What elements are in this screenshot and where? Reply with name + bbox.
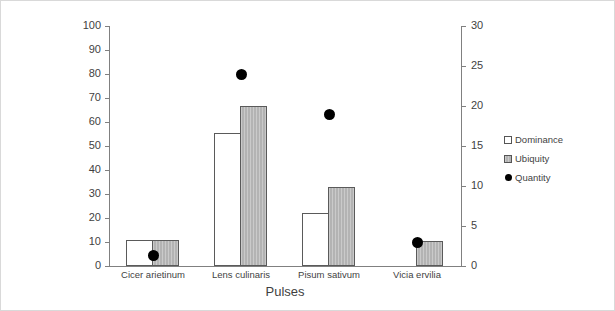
y2-axis-tick-mark [462,66,466,67]
data-point-quantity [412,237,423,248]
legend-item-ubiquity: Ubiquity [504,153,609,164]
y-axis-tick-label: 100 [67,20,101,31]
y-axis-tick-label: 20 [67,212,101,223]
y2-axis-tick-label: 0 [471,260,505,271]
square-gray-icon [504,155,512,163]
bar-dominance [214,133,241,266]
y2-axis-tick-mark [462,146,466,147]
y2-axis-tick-label: 15 [471,140,505,151]
y-axis-tick-mark [105,266,109,267]
data-point-quantity [236,69,247,80]
x-axis-tick-label: Lens culinaris [197,270,285,280]
x-axis-tick-label: Cicer arietinum [109,270,197,280]
legend-label-quantity: Quantity [515,172,550,183]
y-axis-tick-label: 90 [67,44,101,55]
y-axis-tick-label: 30 [67,188,101,199]
data-point-quantity [148,250,159,261]
bar-dominance [302,213,329,266]
plot-area [109,26,461,266]
y2-axis-tick-mark [462,106,466,107]
y-axis-tick-label: 60 [67,116,101,127]
y2-axis-tick-label: 25 [471,60,505,71]
y-axis-tick-label: 70 [67,92,101,103]
legend-label-ubiquity: Ubiquity [515,153,549,164]
y2-axis-tick-label: 30 [471,20,505,31]
bar-ubiquity [328,187,355,266]
x-axis-title: Pulses [109,284,461,299]
data-point-quantity [324,109,335,120]
bar-ubiquity [240,106,267,266]
y-axis-tick-label: 50 [67,140,101,151]
square-white-icon [504,136,512,144]
y2-axis-tick-mark [462,266,466,267]
y-axis-tick-label: 0 [67,260,101,271]
legend-item-dominance: Dominance [504,134,609,145]
y2-axis-tick-label: 20 [471,100,505,111]
y-axis-tick-label: 40 [67,164,101,175]
x-axis-line [109,266,462,267]
y-axis-tick-label: 80 [67,68,101,79]
x-axis-tick-label: Vicia ervilia [373,270,461,280]
y2-axis-tick-label: 10 [471,180,505,191]
chart-legend: Dominance Ubiquity Quantity [504,134,609,191]
legend-item-quantity: Quantity [504,172,609,183]
circle-black-icon [505,174,512,181]
y2-axis-tick-label: 5 [471,220,505,231]
legend-label-dominance: Dominance [515,134,563,145]
y2-axis-tick-mark [462,186,466,187]
y-axis-tick-label: 10 [67,236,101,247]
y2-axis-tick-mark [462,26,466,27]
chart-figure: 0102030405060708090100 051015202530 Cice… [0,0,615,311]
x-axis-tick-label: Pisum sativum [285,270,373,280]
y2-axis-tick-mark [462,226,466,227]
